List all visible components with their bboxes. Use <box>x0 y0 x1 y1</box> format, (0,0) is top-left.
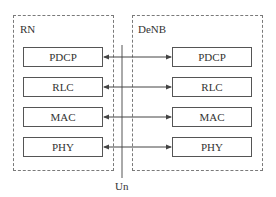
connectors <box>0 0 276 197</box>
un-interface-label: Un <box>115 180 128 192</box>
